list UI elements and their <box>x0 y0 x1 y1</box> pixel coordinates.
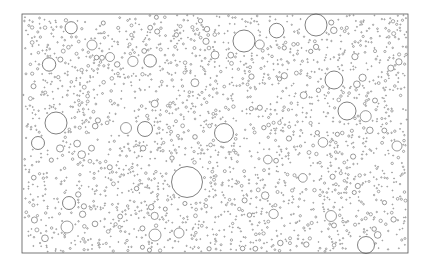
disk-packing-chart <box>0 0 430 269</box>
figure-background <box>0 0 430 269</box>
figure-root <box>0 0 430 269</box>
